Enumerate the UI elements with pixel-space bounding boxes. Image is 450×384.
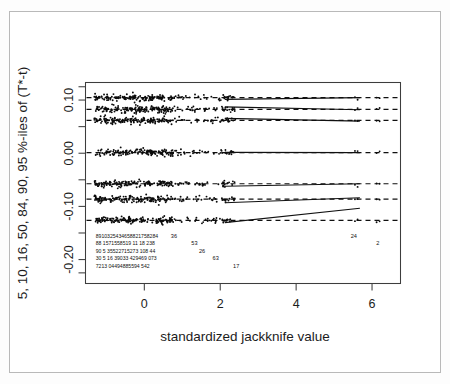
data-point bbox=[111, 195, 113, 197]
data-point bbox=[139, 124, 141, 126]
y-tick-label-1: 0.00 bbox=[63, 141, 77, 165]
data-point bbox=[135, 220, 137, 222]
data-point bbox=[153, 117, 155, 119]
data-point bbox=[164, 181, 166, 183]
data-point bbox=[138, 151, 140, 153]
data-point bbox=[110, 117, 112, 119]
data-point bbox=[97, 201, 99, 203]
data-point bbox=[161, 220, 163, 222]
data-point bbox=[106, 122, 108, 124]
data-point bbox=[225, 220, 227, 222]
data-point bbox=[226, 198, 228, 200]
data-point bbox=[110, 122, 112, 124]
data-point bbox=[166, 194, 168, 196]
data-point bbox=[135, 104, 137, 106]
data-point bbox=[125, 196, 127, 198]
data-point bbox=[170, 109, 172, 111]
data-point bbox=[228, 95, 230, 97]
data-point bbox=[114, 111, 116, 113]
data-point bbox=[103, 94, 105, 96]
data-point bbox=[181, 96, 183, 98]
data-point bbox=[214, 222, 216, 224]
data-point bbox=[116, 184, 118, 186]
data-point bbox=[172, 198, 174, 200]
case-label-row-3: 90 5 35522715273 108 44 bbox=[96, 248, 156, 254]
data-point bbox=[119, 152, 121, 154]
data-point bbox=[95, 99, 97, 101]
data-point bbox=[227, 119, 229, 121]
data-point bbox=[207, 220, 209, 222]
data-point bbox=[211, 199, 213, 201]
data-point bbox=[203, 108, 205, 110]
data-point bbox=[164, 149, 166, 151]
data-point bbox=[206, 181, 208, 183]
data-point bbox=[223, 110, 225, 112]
data-point bbox=[150, 99, 152, 101]
data-point bbox=[133, 197, 135, 199]
data-point bbox=[187, 218, 189, 220]
data-point bbox=[164, 108, 166, 110]
data-point bbox=[215, 109, 217, 111]
data-point bbox=[148, 99, 150, 101]
data-point bbox=[158, 199, 160, 201]
data-point bbox=[165, 201, 167, 203]
data-point bbox=[131, 182, 133, 184]
data-point bbox=[142, 147, 144, 149]
data-point bbox=[202, 185, 204, 187]
data-point bbox=[145, 106, 147, 108]
data-point bbox=[162, 117, 164, 119]
y-tick-label-0: 0.10 bbox=[63, 88, 77, 112]
data-point bbox=[109, 184, 111, 186]
data-point bbox=[165, 199, 167, 201]
data-point bbox=[164, 113, 166, 115]
data-point bbox=[196, 108, 198, 110]
data-point bbox=[105, 199, 107, 201]
data-point bbox=[124, 183, 126, 185]
data-point bbox=[112, 120, 114, 122]
data-point bbox=[137, 201, 139, 203]
data-point bbox=[129, 218, 131, 220]
data-point bbox=[111, 109, 113, 111]
data-point bbox=[169, 99, 171, 101]
data-point bbox=[172, 119, 174, 121]
case-label-sparse-2-1: 2 bbox=[376, 240, 379, 246]
data-point bbox=[140, 107, 142, 109]
data-point bbox=[207, 151, 209, 153]
data-point bbox=[126, 200, 128, 202]
data-point bbox=[183, 119, 185, 121]
data-point bbox=[107, 150, 109, 152]
data-point bbox=[118, 181, 120, 183]
data-point bbox=[129, 107, 131, 109]
data-point bbox=[137, 181, 139, 183]
data-point bbox=[229, 218, 231, 220]
data-point bbox=[156, 182, 158, 184]
data-point bbox=[135, 95, 137, 97]
data-point bbox=[379, 120, 381, 122]
data-point bbox=[136, 183, 138, 185]
data-point bbox=[132, 199, 134, 201]
data-point bbox=[116, 109, 118, 111]
x-tick-label-0: 0 bbox=[141, 297, 148, 311]
data-point bbox=[181, 221, 183, 223]
data-point bbox=[125, 181, 127, 183]
data-point bbox=[184, 181, 186, 183]
data-point bbox=[376, 183, 378, 185]
data-point bbox=[139, 100, 141, 102]
data-point bbox=[230, 153, 232, 155]
data-point bbox=[216, 107, 218, 109]
data-point bbox=[122, 153, 124, 155]
data-point bbox=[181, 183, 183, 185]
x-axis-title: standardized jackknife value bbox=[160, 329, 330, 344]
data-point bbox=[97, 222, 99, 224]
series-10-pctile bbox=[87, 194, 400, 206]
data-point bbox=[169, 184, 171, 186]
data-point bbox=[173, 96, 175, 98]
data-point bbox=[213, 153, 215, 155]
data-point bbox=[143, 181, 145, 183]
data-point bbox=[115, 107, 117, 109]
data-point bbox=[111, 185, 113, 187]
data-point bbox=[186, 196, 188, 198]
data-point bbox=[168, 152, 170, 154]
jackknife-scatter-plot: 02460.100.00-0.10-0.20standardized jackk… bbox=[0, 0, 450, 384]
data-point bbox=[121, 112, 123, 114]
